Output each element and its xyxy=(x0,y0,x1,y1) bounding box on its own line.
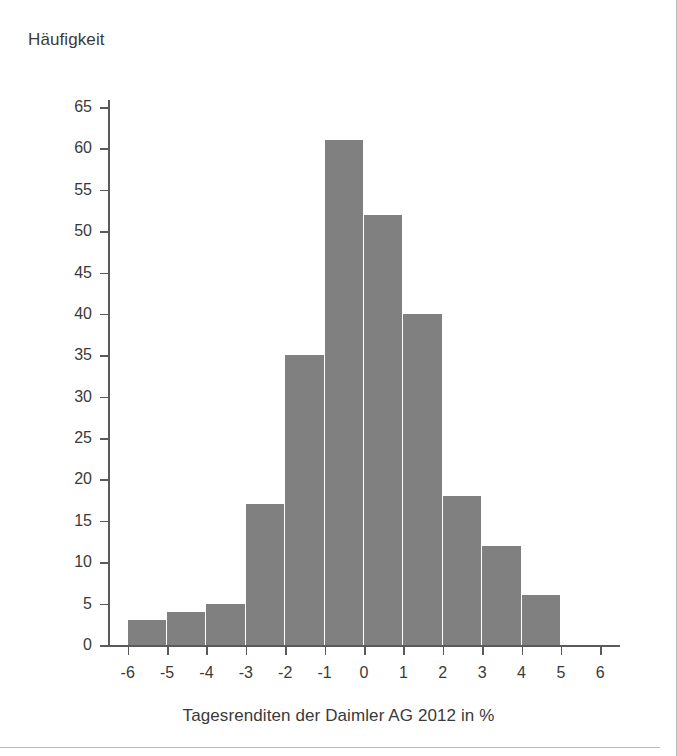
histogram-bar xyxy=(364,215,403,645)
y-axis-title: Häufigkeit xyxy=(28,30,105,50)
x-axis-tick-label: -2 xyxy=(265,664,305,682)
histogram-bar xyxy=(246,504,285,645)
y-axis-tick xyxy=(100,645,109,647)
y-axis-tick xyxy=(100,273,109,275)
y-axis-tick-label: 10 xyxy=(52,554,92,570)
x-axis-tick-label: 0 xyxy=(344,664,384,682)
x-axis-tick xyxy=(522,646,524,655)
y-axis-tick-label: 35 xyxy=(52,347,92,363)
x-axis-tick xyxy=(206,646,208,655)
y-axis-tick-label: 20 xyxy=(52,471,92,487)
x-axis-tick-label: 1 xyxy=(383,664,423,682)
y-axis-tick-label: 45 xyxy=(52,265,92,281)
y-axis-tick xyxy=(100,562,109,564)
x-axis-tick xyxy=(482,646,484,655)
y-axis-tick xyxy=(100,107,109,109)
histogram-bar xyxy=(206,604,245,645)
y-axis-tick-label: 30 xyxy=(52,389,92,405)
histogram-bar xyxy=(285,355,324,645)
x-axis-title: Tagesrenditen der Daimler AG 2012 in % xyxy=(0,706,677,726)
x-axis-tick-label: -4 xyxy=(186,664,226,682)
x-axis-tick xyxy=(285,646,287,655)
histogram-bar xyxy=(403,314,442,645)
y-axis-tick xyxy=(100,190,109,192)
y-axis-tick-label: 60 xyxy=(52,140,92,156)
y-axis-tick xyxy=(100,397,109,399)
x-axis-tick xyxy=(443,646,445,655)
x-axis-tick xyxy=(600,646,602,655)
y-axis-tick xyxy=(100,479,109,481)
x-axis-tick xyxy=(364,646,366,655)
histogram-bar xyxy=(443,496,482,645)
x-axis-tick-label: -1 xyxy=(305,664,345,682)
x-axis-tick xyxy=(246,646,248,655)
y-axis-tick-label: 40 xyxy=(52,306,92,322)
x-axis-tick-label: -6 xyxy=(108,664,148,682)
histogram-bar xyxy=(128,620,167,645)
x-axis-tick-label: 6 xyxy=(580,664,620,682)
x-axis-tick xyxy=(128,646,130,655)
y-axis-tick xyxy=(100,314,109,316)
x-axis-tick xyxy=(403,646,405,655)
y-axis-tick-label: 65 xyxy=(52,99,92,115)
histogram-bar xyxy=(482,546,521,645)
y-axis-tick-label: 25 xyxy=(52,430,92,446)
histogram-bar xyxy=(522,595,561,645)
x-axis-tick-label: 4 xyxy=(502,664,542,682)
x-axis-tick-label: -3 xyxy=(226,664,266,682)
histogram-bar xyxy=(167,612,206,645)
y-axis-tick-label: 55 xyxy=(52,182,92,198)
y-axis-tick xyxy=(100,148,109,150)
histogram-bar xyxy=(325,140,364,645)
y-axis-tick xyxy=(100,438,109,440)
x-axis-tick-label: -5 xyxy=(147,664,187,682)
y-axis-tick-label: 50 xyxy=(52,223,92,239)
y-axis-tick-label: 15 xyxy=(52,513,92,529)
y-axis-line xyxy=(108,100,110,646)
histogram-chart: Häufigkeit 05101520253035404550556065 -6… xyxy=(0,0,677,756)
y-axis-tick xyxy=(100,355,109,357)
x-axis-tick-label: 5 xyxy=(541,664,581,682)
x-axis-tick-label: 3 xyxy=(462,664,502,682)
x-axis-tick-label: 2 xyxy=(423,664,463,682)
x-axis-tick xyxy=(561,646,563,655)
y-axis-tick xyxy=(100,231,109,233)
x-axis-tick xyxy=(167,646,169,655)
y-axis-tick-label: 5 xyxy=(52,596,92,612)
y-axis-tick-label: 0 xyxy=(52,637,92,653)
x-axis-tick xyxy=(325,646,327,655)
y-axis-tick xyxy=(100,604,109,606)
y-axis-tick xyxy=(100,521,109,523)
